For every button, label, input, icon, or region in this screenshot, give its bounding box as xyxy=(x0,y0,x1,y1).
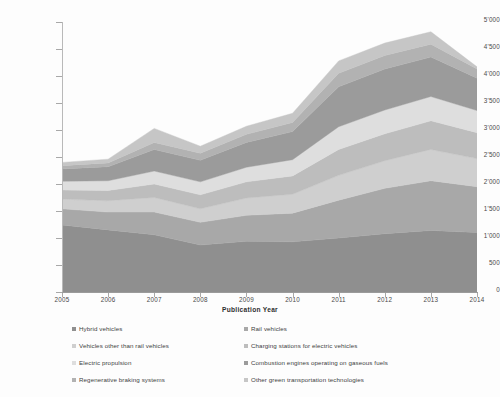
legend-item[interactable]: Regenerative braking systems xyxy=(72,376,244,383)
x-tick-mark xyxy=(339,293,340,297)
stacked-area-series xyxy=(62,22,477,292)
y-tick-label: 2'000 xyxy=(462,178,500,185)
y-tick-mark xyxy=(56,265,62,266)
x-tick-label: 2013 xyxy=(411,296,451,303)
x-tick-label: 2014 xyxy=(457,296,497,303)
x-tick-label: 2009 xyxy=(226,296,266,303)
legend-label: Vehicles other than rail vehicles xyxy=(79,342,169,349)
y-tick-mark xyxy=(56,184,62,185)
x-tick-mark xyxy=(246,293,247,297)
legend-swatch-icon xyxy=(72,327,76,331)
x-tick-label: 2005 xyxy=(42,296,82,303)
y-tick-mark xyxy=(56,157,62,158)
legend-item[interactable]: Other green transportation technologies xyxy=(244,376,484,383)
legend-label: Electric propulsion xyxy=(79,359,131,366)
legend-item[interactable]: Charging stations for electric vehicles xyxy=(244,342,484,349)
y-tick-label: 4'500 xyxy=(462,43,500,50)
legend-item[interactable]: Combustion engines operating on gaseous … xyxy=(244,359,484,366)
plot-area xyxy=(62,22,477,292)
x-tick-label: 2007 xyxy=(134,296,174,303)
y-tick-label: 1'000 xyxy=(462,232,500,239)
x-tick-mark xyxy=(62,293,63,297)
y-tick-label: 5'000 xyxy=(462,16,500,23)
legend-swatch-icon xyxy=(72,378,76,382)
y-tick-label: 3'500 xyxy=(462,97,500,104)
legend-item[interactable]: Electric propulsion xyxy=(72,359,244,366)
legend-label: Regenerative braking systems xyxy=(79,376,165,383)
y-tick-label: 500 xyxy=(462,259,500,266)
legend-item[interactable]: Vehicles other than rail vehicles xyxy=(72,342,244,349)
legend-label: Rail vehicles xyxy=(251,325,287,332)
chart-figure: 05001'0001'5002'0002'5003'0003'5004'0004… xyxy=(0,0,500,397)
x-tick-mark xyxy=(154,293,155,297)
y-tick-mark xyxy=(56,103,62,104)
x-tick-mark xyxy=(385,293,386,297)
y-tick-mark xyxy=(56,211,62,212)
x-tick-label: 2011 xyxy=(319,296,359,303)
x-tick-label: 2006 xyxy=(88,296,128,303)
legend-swatch-icon xyxy=(244,361,248,365)
y-tick-label: 1'500 xyxy=(462,205,500,212)
x-tick-mark xyxy=(431,293,432,297)
y-axis-line xyxy=(62,22,63,293)
y-tick-mark xyxy=(56,76,62,77)
y-tick-mark xyxy=(56,22,62,23)
y-tick-label: 2'500 xyxy=(462,151,500,158)
x-tick-label: 2010 xyxy=(273,296,313,303)
x-axis-line xyxy=(62,292,478,293)
x-tick-mark xyxy=(477,293,478,297)
legend-item[interactable]: Hybrid vehicles xyxy=(72,325,244,332)
legend-swatch-icon xyxy=(244,344,248,348)
y-tick-mark xyxy=(56,238,62,239)
y-tick-label: 0 xyxy=(462,286,500,293)
y-tick-label: 4'000 xyxy=(462,70,500,77)
legend-swatch-icon xyxy=(244,378,248,382)
legend-label: Combustion engines operating on gaseous … xyxy=(251,359,388,366)
legend-label: Other green transportation technologies xyxy=(251,376,364,383)
y-tick-mark xyxy=(56,130,62,131)
chart-legend: Hybrid vehiclesRail vehiclesVehicles oth… xyxy=(72,320,484,388)
legend-swatch-icon xyxy=(72,344,76,348)
legend-swatch-icon xyxy=(244,327,248,331)
y-tick-mark xyxy=(56,49,62,50)
legend-item[interactable]: Rail vehicles xyxy=(244,325,484,332)
legend-label: Charging stations for electric vehicles xyxy=(251,342,357,349)
x-tick-label: 2008 xyxy=(180,296,220,303)
x-tick-mark xyxy=(200,293,201,297)
y-tick-label: 3'000 xyxy=(462,124,500,131)
legend-label: Hybrid vehicles xyxy=(79,325,122,332)
x-tick-mark xyxy=(108,293,109,297)
legend-swatch-icon xyxy=(72,361,76,365)
x-tick-mark xyxy=(293,293,294,297)
x-tick-label: 2012 xyxy=(365,296,405,303)
x-axis-title: Publication Year xyxy=(0,306,500,313)
